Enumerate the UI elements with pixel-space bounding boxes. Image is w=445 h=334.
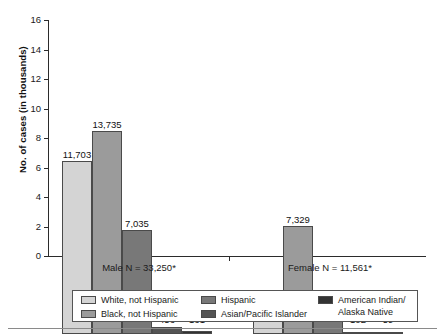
legend-item-american-indian-alaska-native: American Indian/ Alaska Native [318, 294, 406, 307]
y-tick-mark-4 [44, 197, 48, 198]
group-label-male: Male N = 33,250* [49, 262, 229, 273]
y-tick-mark-12 [44, 79, 48, 80]
legend-label-asian-pacific-islander: Asian/Pacific Islander [221, 308, 307, 320]
legend-label-line-1: American Indian/ [338, 295, 406, 305]
y-tick-label-16: 16 [30, 13, 41, 26]
bar-label-male-hispanic: 7,035 [109, 218, 165, 229]
legend-swatch-asian-pacific-islander [201, 310, 216, 318]
legend-swatch-black-not-hispanic [81, 310, 96, 318]
legend-label-white-not-hispanic: White, not Hispanic [101, 294, 179, 306]
y-tick-10: 10 [0, 109, 48, 110]
y-tick-label-12: 12 [30, 72, 41, 85]
group-label-female: Female N = 11,561* [240, 262, 420, 273]
legend-column-1: White, not Hispanic Black, not Hispanic [81, 294, 179, 322]
chart-legend: White, not Hispanic Black, not Hispanic … [72, 290, 418, 322]
y-tick-4: 4 [0, 197, 48, 198]
bar-chart-figure: No. of cases (in thousands) 16 14 12 10 … [0, 0, 445, 334]
y-tick-label-8: 8 [36, 131, 41, 144]
y-tick-2: 2 [0, 227, 48, 228]
y-tick-label-10: 10 [30, 102, 41, 115]
y-tick-12: 12 [0, 79, 48, 80]
legend-column-3: American Indian/ Alaska Native [318, 294, 406, 308]
legend-item-white-not-hispanic: White, not Hispanic [81, 294, 179, 307]
footer-rule [8, 328, 437, 329]
legend-item-hispanic: Hispanic [201, 294, 307, 307]
legend-column-2: Hispanic Asian/Pacific Islander [201, 294, 307, 322]
legend-swatch-american-indian-alaska-native [318, 296, 333, 304]
bar-label-male-black-not-hispanic: 13,735 [79, 119, 135, 130]
y-tick-mark-8 [44, 138, 48, 139]
y-tick-mark-16 [44, 20, 48, 21]
legend-label-line-2: Alaska Native [338, 306, 406, 318]
y-tick-mark-2 [44, 227, 48, 228]
x-axis-tick-male [229, 256, 230, 261]
y-tick-mark-14 [44, 50, 48, 51]
y-tick-mark-0 [44, 256, 48, 257]
y-tick-8: 8 [0, 138, 48, 139]
legend-swatch-hispanic [201, 296, 216, 304]
legend-item-asian-pacific-islander: Asian/Pacific Islander [201, 308, 307, 321]
y-tick-label-2: 2 [36, 220, 41, 233]
legend-label-american-indian-alaska-native: American Indian/ Alaska Native [338, 294, 406, 318]
y-tick-label-0: 0 [36, 249, 41, 262]
legend-item-black-not-hispanic: Black, not Hispanic [81, 308, 179, 321]
legend-label-hispanic: Hispanic [221, 294, 256, 306]
y-tick-16: 16 [0, 20, 48, 21]
bar-label-female-black-not-hispanic: 7,329 [270, 214, 326, 225]
y-tick-label-6: 6 [36, 161, 41, 174]
y-tick-14: 14 [0, 50, 48, 51]
y-tick-mark-10 [44, 109, 48, 110]
y-tick-mark-6 [44, 168, 48, 169]
legend-label-black-not-hispanic: Black, not Hispanic [101, 308, 178, 320]
y-tick-label-14: 14 [30, 43, 41, 56]
y-tick-6: 6 [0, 168, 48, 169]
y-tick-0: 0 [0, 256, 48, 257]
y-tick-label-4: 4 [36, 190, 41, 203]
legend-swatch-white-not-hispanic [81, 296, 96, 304]
